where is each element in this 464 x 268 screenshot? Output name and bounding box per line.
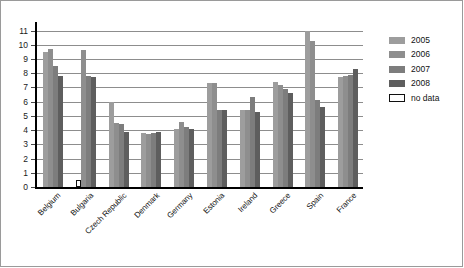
bar [156, 132, 161, 187]
y-tick-label-2: 2 [23, 155, 28, 163]
legend-label: 2008 [411, 79, 430, 88]
y-axis-line [35, 22, 37, 189]
y-tick-label-5: 5 [23, 112, 28, 120]
legend-label: no data [411, 94, 439, 103]
y-tick-label-6: 6 [23, 98, 28, 106]
x-axis-label: Spain [305, 191, 325, 211]
y-tick-mark-4 [31, 130, 35, 131]
legend-item: no data [389, 92, 461, 104]
bar [353, 69, 358, 187]
bar [222, 110, 227, 187]
x-axis-line [35, 187, 363, 189]
bar-group [273, 22, 293, 187]
bar-group [305, 22, 325, 187]
y-tick-mark-7 [31, 87, 35, 88]
legend-item: 2007 [389, 63, 461, 75]
y-tick-label-0: 0 [23, 183, 28, 191]
bar [124, 132, 129, 187]
x-axis-label: France [334, 191, 358, 215]
legend-swatch [389, 51, 405, 58]
y-tick-label-1: 1 [23, 169, 28, 177]
legend-item: 2005 [389, 34, 461, 46]
bar-group [141, 22, 161, 187]
bar-group [338, 22, 358, 187]
legend-swatch [389, 94, 405, 102]
x-axis-label: Estonia [202, 191, 227, 216]
legend-label: 2005 [411, 36, 430, 45]
y-tick-mark-5 [31, 116, 35, 117]
y-tick-mark-10 [31, 45, 35, 46]
y-tick-label-4: 4 [23, 126, 28, 134]
bar-group [43, 22, 63, 187]
y-tick-label-7: 7 [23, 83, 28, 91]
x-axis-category-labels: BelgiumBulgariaCzech RepublicDenmarkGerm… [35, 191, 375, 261]
legend-label: 2007 [411, 65, 430, 74]
bar [91, 77, 96, 187]
chart-frame: 01234567891011 BelgiumBulgariaCzech Repu… [0, 0, 463, 267]
bar-group [240, 22, 260, 187]
bar [320, 107, 325, 187]
bar [189, 129, 194, 187]
x-axis-label: Germany [165, 191, 194, 220]
bar-group [76, 22, 96, 187]
y-tick-mark-6 [31, 102, 35, 103]
x-axis-label: Bulgaria [69, 191, 96, 218]
chart-legend: 2005200620072008no data [389, 34, 461, 107]
y-tick-mark-2 [31, 159, 35, 160]
bar [255, 112, 260, 187]
y-tick-label-3: 3 [23, 140, 28, 148]
bar-group [109, 22, 129, 187]
y-tick-label-11: 11 [19, 27, 28, 35]
y-tick-mark-1 [31, 173, 35, 174]
x-axis-label: Belgium [36, 191, 62, 217]
legend-item: 2006 [389, 49, 461, 61]
x-axis-label: Ireland [236, 191, 259, 214]
legend-swatch [389, 66, 405, 73]
legend-swatch [389, 37, 405, 44]
bar-group [207, 22, 227, 187]
y-tick-mark-11 [31, 31, 35, 32]
legend-label: 2006 [411, 50, 430, 59]
legend-swatch [389, 80, 405, 87]
y-tick-label-8: 8 [23, 69, 28, 77]
bar-group [174, 22, 194, 187]
x-axis-label: Greece [268, 191, 292, 215]
y-tick-mark-8 [31, 73, 35, 74]
y-tick-label-10: 10 [19, 41, 28, 49]
y-tick-mark-9 [31, 59, 35, 60]
bar [58, 76, 63, 187]
bar [288, 93, 293, 187]
legend-item: 2008 [389, 78, 461, 90]
x-axis-label: Denmark [132, 191, 161, 220]
y-tick-mark-0 [31, 187, 35, 188]
plot-area: 01234567891011 [35, 22, 363, 189]
y-tick-mark-3 [31, 144, 35, 145]
y-tick-label-9: 9 [23, 55, 28, 63]
